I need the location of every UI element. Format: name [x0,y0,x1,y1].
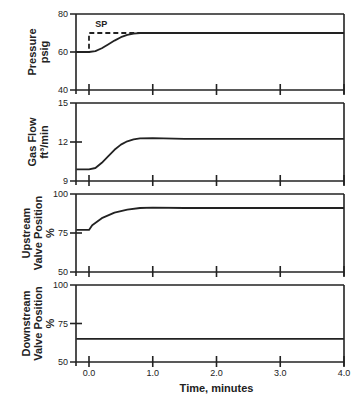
y-axis-label: Gas Flow [26,117,38,166]
y-axis-label: % [44,318,56,328]
y-axis-label: psig [38,41,50,64]
series-pressure [76,33,344,52]
x-tick-label: 4.0 [338,368,351,378]
y-tick-label: 15 [58,98,68,108]
y-axis-label: ft³/min [38,125,50,159]
x-tick-label: 0.0 [83,368,96,378]
y-tick-label: 75 [58,319,68,329]
panel-4: 1007550DownstreamValve Position% [20,280,344,367]
panel-1: 806040PressurepsigSP [26,9,344,95]
y-axis-label: Valve Position [32,286,44,361]
y-tick-label: 40 [58,85,68,95]
series-sp [76,33,344,52]
setpoint-annotation: SP [95,19,107,29]
y-tick-label: 50 [58,357,68,367]
panel-3: 1007550UpstreamValve Position% [20,189,344,277]
y-axis-label: Downstream [20,290,32,356]
y-tick-label: 100 [53,189,68,199]
y-tick-label: 100 [53,280,68,290]
x-tick-label: 2.0 [210,368,223,378]
y-tick-label: 9 [63,176,68,186]
y-tick-label: 80 [58,9,68,19]
series-gas-flow [76,138,344,169]
y-tick-label: 12 [58,137,68,147]
x-tick-label: 1.0 [146,368,159,378]
y-tick-label: 60 [58,47,68,57]
x-tick-label: 3.0 [274,368,287,378]
y-axis-label: Pressure [26,28,38,75]
y-axis-label: % [44,228,56,238]
y-axis-label: Valve Position [32,195,44,270]
series-upstream-valve-position [76,208,344,230]
panel-2: 15129Gas Flowft³/min [26,98,344,186]
x-axis-label: Time, minutes [180,382,254,394]
y-axis-label: Upstream [20,207,32,258]
y-tick-label: 75 [58,228,68,238]
y-tick-label: 50 [58,267,68,277]
figure: 806040PressurepsigSP15129Gas Flowft³/min… [0,0,361,405]
